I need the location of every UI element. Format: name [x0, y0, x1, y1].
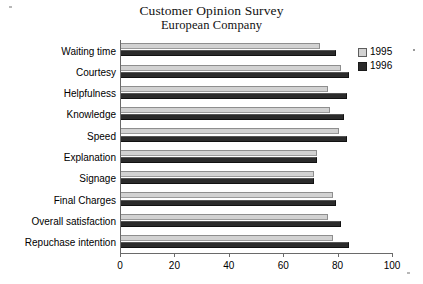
bar-1995-speed: [121, 128, 339, 134]
chart-title: Customer Opinion Survey: [0, 3, 423, 18]
bar-1996-helpfulness: [121, 93, 347, 99]
bar-1996-courtesy: [121, 72, 349, 78]
bar-1995-signage: [121, 171, 314, 177]
category-label-final-charges: Final Charges: [54, 195, 116, 206]
x-tick-mark: [120, 253, 121, 257]
legend-swatch-1996-icon: [358, 62, 367, 71]
bar-1995-repuchase-intention: [121, 235, 333, 241]
x-tick-mark: [283, 253, 284, 257]
bar-1996-waiting-time: [121, 50, 336, 56]
x-tick-label: 40: [223, 260, 234, 271]
category-label-courtesy: Courtesy: [76, 67, 116, 78]
bar-1995-courtesy: [121, 65, 341, 71]
chart-title-block: Customer Opinion Survey European Company: [0, 3, 423, 32]
legend-label-1996: 1996: [370, 61, 392, 71]
bar-1995-overall-satisfaction: [121, 214, 328, 220]
bar-1996-repuchase-intention: [121, 242, 349, 248]
bar-1996-final-charges: [121, 200, 336, 206]
bar-1996-speed: [121, 136, 347, 142]
scan-artifact-speck: [9, 6, 12, 8]
scan-artifact-speck: [407, 272, 410, 274]
category-label-knowledge: Knowledge: [67, 109, 116, 120]
category-label-overall-satisfaction: Overall satisfaction: [32, 216, 116, 227]
legend-entry-1996: 1996: [358, 60, 420, 72]
legend-label-1995: 1995: [370, 47, 392, 57]
x-tick-mark: [229, 253, 230, 257]
bar-1995-knowledge: [121, 107, 330, 113]
chart-legend: 1995 1996: [358, 46, 420, 74]
x-tick-label: 80: [332, 260, 343, 271]
scan-artifact-speck: [413, 49, 415, 51]
category-label-explanation: Explanation: [64, 152, 116, 163]
bar-1995-explanation: [121, 150, 317, 156]
category-label-repuchase-intention: Repuchase intention: [25, 237, 116, 248]
legend-entry-1995: 1995: [358, 46, 420, 58]
x-tick-label: 0: [117, 260, 123, 271]
x-tick-mark: [338, 253, 339, 257]
bar-1995-final-charges: [121, 192, 333, 198]
bar-1995-helpfulness: [121, 86, 328, 92]
x-tick-mark: [392, 253, 393, 257]
bar-1996-explanation: [121, 157, 317, 163]
chart-canvas: Customer Opinion Survey European Company…: [0, 0, 423, 284]
x-tick-label: 60: [278, 260, 289, 271]
bar-1996-signage: [121, 178, 314, 184]
bar-1996-knowledge: [121, 114, 344, 120]
chart-subtitle: European Company: [0, 18, 423, 32]
plot-area: 020406080100: [120, 40, 392, 253]
legend-swatch-1995-icon: [358, 48, 367, 57]
x-tick-mark: [174, 253, 175, 257]
x-tick-label: 100: [384, 260, 401, 271]
x-tick-label: 20: [169, 260, 180, 271]
bar-1995-waiting-time: [121, 43, 320, 49]
category-label-signage: Signage: [79, 173, 116, 184]
category-label-waiting-time: Waiting time: [61, 46, 116, 57]
bar-1996-overall-satisfaction: [121, 221, 341, 227]
category-label-helpfulness: Helpfulness: [64, 88, 116, 99]
x-axis-line: [120, 253, 392, 254]
category-label-speed: Speed: [87, 131, 116, 142]
